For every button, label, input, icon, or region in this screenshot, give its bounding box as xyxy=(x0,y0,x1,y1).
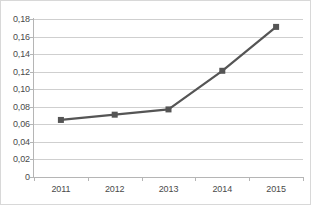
series-line-chart xyxy=(34,19,303,177)
x-axis-tick-label: 2011 xyxy=(34,184,88,200)
x-axis-tick-mark xyxy=(34,177,35,181)
y-axis-tick-mark xyxy=(30,54,34,55)
x-axis-tick-label: 2013 xyxy=(142,184,196,200)
y-axis-tick-label: 0,10 xyxy=(13,84,30,94)
data-point-marker xyxy=(219,68,225,74)
chart-container: 00,020,040,060,080,100,120,140,160,18 20… xyxy=(0,0,311,205)
y-axis-tick-label: 0,04 xyxy=(13,137,30,147)
x-axis-tick-mark xyxy=(142,177,143,181)
y-axis-tick-mark xyxy=(30,72,34,73)
data-point-marker xyxy=(273,24,279,30)
gridline xyxy=(34,177,303,178)
y-axis-tick-mark xyxy=(30,107,34,108)
y-axis-tick-mark xyxy=(30,159,34,160)
y-axis-tick-mark xyxy=(30,37,34,38)
y-axis-tick-label: 0,14 xyxy=(13,49,30,59)
y-axis-tick-label: 0,12 xyxy=(13,67,30,77)
series-line xyxy=(61,27,276,120)
y-axis-tick-label: 0,06 xyxy=(13,119,30,129)
x-axis-tick-label: 2014 xyxy=(195,184,249,200)
y-axis-tick-mark xyxy=(30,19,34,20)
y-axis-tick-mark xyxy=(30,89,34,90)
y-axis-tick-label: 0,16 xyxy=(13,32,30,42)
x-axis-tick-mark xyxy=(88,177,89,181)
y-axis-tick-labels: 00,020,040,060,080,100,120,140,160,18 xyxy=(1,1,30,207)
x-axis-tick-mark xyxy=(303,177,304,181)
y-axis-tick-mark xyxy=(30,142,34,143)
y-axis-tick-mark xyxy=(30,124,34,125)
x-axis-tick-label: 2012 xyxy=(88,184,142,200)
data-point-marker xyxy=(58,117,64,123)
data-point-marker xyxy=(166,106,172,112)
y-axis-tick-label: 0,02 xyxy=(13,154,30,164)
y-axis-tick-label: 0,08 xyxy=(13,102,30,112)
x-axis-tick-mark xyxy=(249,177,250,181)
x-axis-tick-label: 2015 xyxy=(249,184,303,200)
y-axis-tick-label: 0,18 xyxy=(13,14,30,24)
x-axis-tick-labels: 20112012201320142015 xyxy=(34,184,303,200)
x-axis-tick-mark xyxy=(195,177,196,181)
data-point-marker xyxy=(112,112,118,118)
series-markers xyxy=(58,24,279,123)
